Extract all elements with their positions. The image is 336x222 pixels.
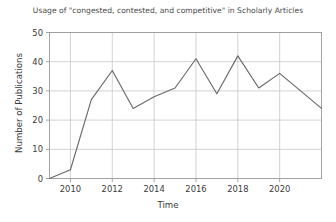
svg-text:40: 40 bbox=[32, 57, 43, 67]
plot-frame bbox=[50, 33, 322, 179]
svg-text:2020: 2020 bbox=[269, 184, 290, 194]
svg-text:50: 50 bbox=[32, 28, 43, 38]
x-tick-marks bbox=[70, 179, 279, 183]
grid-lines bbox=[50, 33, 322, 179]
data-series-line bbox=[50, 56, 322, 179]
line-chart: Usage of "congested, contested, and comp… bbox=[0, 0, 336, 222]
plot-area: 01020304050 201020122014201620182020 bbox=[0, 0, 336, 222]
svg-text:2010: 2010 bbox=[60, 184, 81, 194]
svg-text:2012: 2012 bbox=[102, 184, 123, 194]
svg-text:2014: 2014 bbox=[143, 184, 164, 194]
svg-text:2018: 2018 bbox=[227, 184, 248, 194]
y-tick-marks bbox=[46, 33, 50, 179]
svg-text:20: 20 bbox=[32, 115, 43, 125]
svg-text:10: 10 bbox=[32, 144, 43, 154]
svg-text:2016: 2016 bbox=[185, 184, 206, 194]
y-tick-labels: 01020304050 bbox=[32, 28, 43, 184]
x-tick-labels: 201020122014201620182020 bbox=[60, 184, 291, 194]
svg-text:30: 30 bbox=[32, 86, 43, 96]
svg-text:0: 0 bbox=[38, 174, 43, 184]
